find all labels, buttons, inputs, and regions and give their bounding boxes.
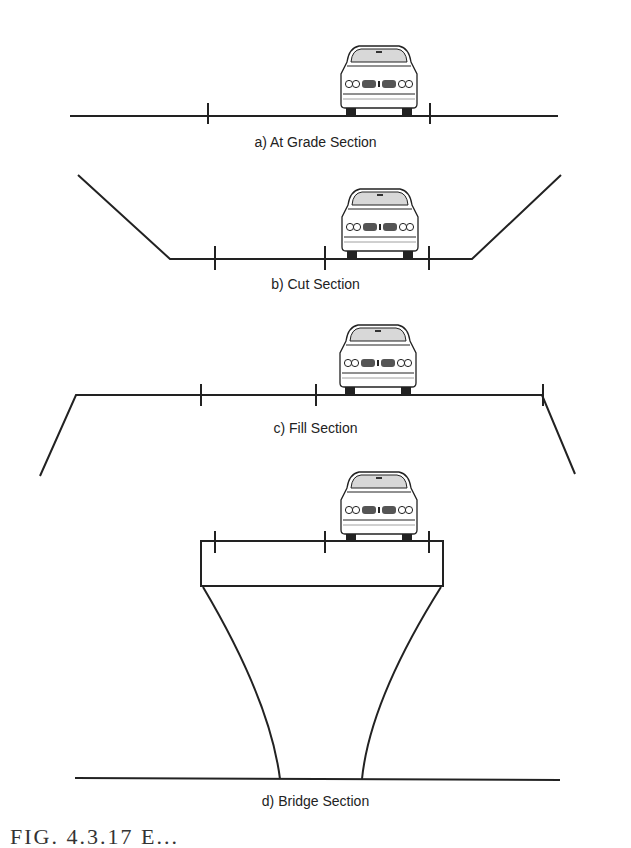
panel-b-cut xyxy=(78,175,561,270)
figure-caption: FIG. 4.3.17 E... xyxy=(10,824,179,848)
panel-a-label: a) At Grade Section xyxy=(0,134,631,150)
panel-d-bridge xyxy=(75,472,560,780)
panel-d-label: d) Bridge Section xyxy=(0,793,631,809)
panel-a-at-grade xyxy=(70,46,558,124)
panel-c-fill xyxy=(40,325,575,476)
panel-c-label: c) Fill Section xyxy=(0,420,631,436)
panel-b-label: b) Cut Section xyxy=(0,276,631,292)
